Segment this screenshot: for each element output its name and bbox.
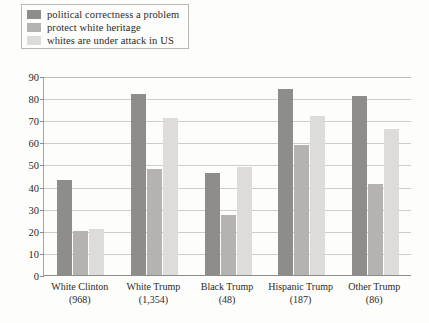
x-axis-label-count: (1,354): [117, 293, 191, 306]
bar-group: [205, 77, 252, 275]
y-axis-tick-40: 40: [29, 182, 40, 193]
x-axis-label: Other Trump(86): [337, 280, 411, 306]
legend-item-whites-under-attack: whites are under attack in US: [27, 34, 184, 47]
bar: [147, 169, 162, 275]
x-axis-label-category: White Clinton: [43, 280, 117, 293]
y-axis-tickmark-90: [40, 77, 44, 78]
bar-group: [131, 77, 178, 275]
bar: [368, 184, 383, 275]
y-axis-tick-70: 70: [29, 116, 40, 127]
bar-chart-figure: political correctness a problem protect …: [0, 0, 429, 323]
x-axis-label-count: (48): [190, 293, 264, 306]
bar: [352, 96, 367, 275]
y-axis-tickmark-70: [40, 121, 44, 122]
legend-label-protect-white-heritage: protect white heritage: [47, 21, 141, 34]
plot-area: 0102030405060708090: [43, 77, 411, 276]
bar-group: [278, 77, 325, 275]
bar: [294, 145, 309, 275]
y-axis-tickmark-0: [40, 276, 44, 277]
bar: [221, 215, 236, 275]
y-axis-tickmark-10: [40, 254, 44, 255]
x-axis-label: Hispanic Trump(187): [264, 280, 338, 306]
legend-item-political-correctness: political correctness a problem: [27, 8, 184, 21]
y-axis-tickmark-20: [40, 232, 44, 233]
bar: [163, 118, 178, 275]
x-axis-label: Black Trump(48): [190, 280, 264, 306]
y-axis-tick-60: 60: [29, 138, 40, 149]
legend-swatch-protect-white-heritage: [27, 23, 41, 32]
bar: [57, 180, 72, 275]
y-axis-tickmark-30: [40, 210, 44, 211]
y-axis-tickmark-40: [40, 188, 44, 189]
x-axis-label: White Trump(1,354): [117, 280, 191, 306]
x-axis-label-count: (968): [43, 293, 117, 306]
bar: [205, 173, 220, 275]
x-axis-label-count: (187): [264, 293, 338, 306]
x-axis-label-category: Other Trump: [337, 280, 411, 293]
legend-item-protect-white-heritage: protect white heritage: [27, 21, 184, 34]
y-axis-tickmark-50: [40, 165, 44, 166]
y-axis-tick-0: 0: [34, 271, 39, 282]
x-axis-label-category: Hispanic Trump: [264, 280, 338, 293]
y-axis-tick-20: 20: [29, 226, 40, 237]
legend-label-whites-under-attack: whites are under attack in US: [47, 34, 174, 47]
legend-swatch-whites-under-attack: [27, 36, 41, 45]
bar: [310, 116, 325, 275]
bar: [131, 94, 146, 275]
x-axis-label-category: Black Trump: [190, 280, 264, 293]
y-axis-tick-10: 10: [29, 248, 40, 259]
legend-label-political-correctness: political correctness a problem: [47, 8, 179, 21]
y-axis-tick-90: 90: [29, 72, 40, 83]
x-axis-label-count: (86): [337, 293, 411, 306]
y-axis-tick-80: 80: [29, 94, 40, 105]
legend-swatch-political-correctness: [27, 10, 41, 19]
chart-legend: political correctness a problem protect …: [21, 4, 189, 49]
bar-group: [352, 77, 399, 275]
bar: [384, 129, 399, 275]
bar: [278, 89, 293, 275]
bar-group: [57, 77, 104, 275]
x-axis-label-category: White Trump: [117, 280, 191, 293]
y-axis-tick-30: 30: [29, 204, 40, 215]
bar: [89, 229, 104, 275]
bar: [73, 231, 88, 275]
y-axis-tick-50: 50: [29, 160, 40, 171]
y-axis-tickmark-80: [40, 99, 44, 100]
y-axis-tickmark-60: [40, 143, 44, 144]
x-axis-label: White Clinton(968): [43, 280, 117, 306]
bar: [237, 167, 252, 275]
